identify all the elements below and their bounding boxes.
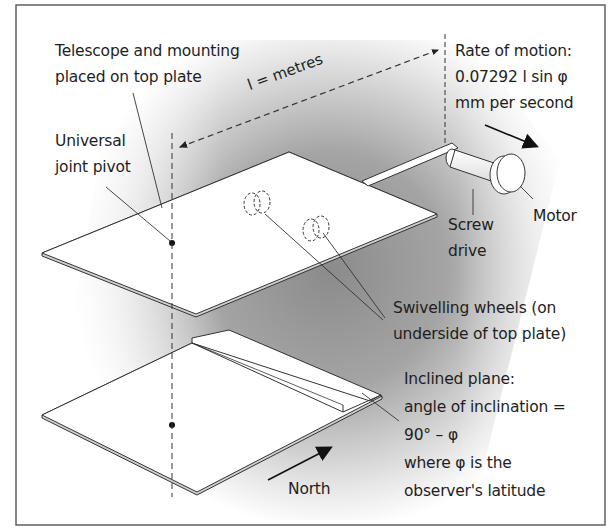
diagram-canvas: Telescope and mounting placed on top pla… bbox=[0, 0, 616, 532]
universal-joint-label: Universal joint pivot bbox=[55, 128, 131, 180]
motor bbox=[490, 154, 525, 194]
screw-drive-label: Screw drive bbox=[448, 212, 494, 264]
swivelling-wheels-label: Swivelling wheels (on underside of top p… bbox=[393, 295, 566, 347]
motor-label: Motor bbox=[533, 203, 577, 229]
rate-of-motion-label: Rate of motion: 0.07292 l sin φ mm per s… bbox=[455, 38, 573, 116]
telescope-mount-label: Telescope and mounting placed on top pla… bbox=[55, 38, 240, 90]
inclined-plane-label: Inclined plane: angle of inclination = 9… bbox=[404, 365, 566, 505]
north-label: North bbox=[288, 476, 330, 502]
